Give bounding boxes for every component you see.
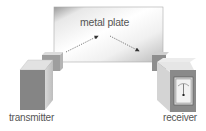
diagram-canvas: metal plate transmitter receiver	[0, 0, 206, 131]
receiver-label: receiver	[163, 112, 197, 123]
transmitter-box	[20, 60, 53, 110]
metal-plate-label: metal plate	[80, 16, 129, 28]
transmitter-label: transmitter	[9, 112, 54, 123]
meter-icon	[174, 77, 193, 105]
